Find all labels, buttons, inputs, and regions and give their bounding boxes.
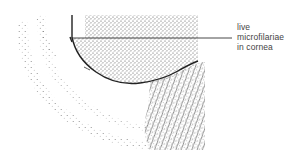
annotation-label: live microfilariae in cornea [237,22,284,52]
label-line-1: live [237,22,284,32]
label-line-3: in cornea [237,42,284,52]
label-line-2: microfilariae [237,32,284,42]
